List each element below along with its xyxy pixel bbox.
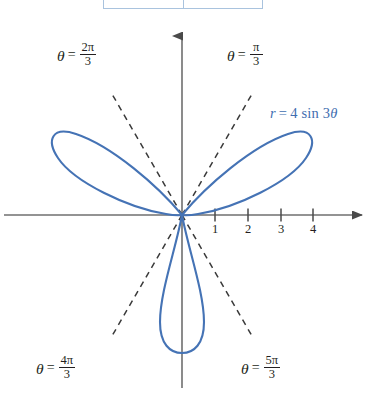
fraction-numerator: 5π — [264, 354, 281, 367]
angle-label-5pi-over-3: θ = 5π 3 — [241, 355, 280, 382]
x-tick-label-3: 3 — [273, 222, 289, 237]
fraction-denominator: 3 — [83, 55, 93, 68]
x-tick-label-1: 1 — [207, 222, 223, 237]
fraction-2pi-over-3: 2π 3 — [80, 41, 97, 68]
fraction-numerator: π — [251, 41, 261, 54]
x-tick-label-2: 2 — [240, 222, 256, 237]
fraction-denominator: 3 — [62, 368, 72, 381]
petal-right — [182, 132, 312, 216]
angle-label-2pi-over-3: θ = 2π 3 — [57, 42, 96, 69]
fraction-denominator: 3 — [251, 55, 261, 68]
angle-label-4pi-over-3: θ = 4π 3 — [36, 355, 75, 382]
fraction-4pi-over-3: 4π 3 — [59, 354, 76, 381]
equals-symbol: = — [252, 361, 260, 375]
equation-equals: = — [279, 105, 287, 121]
dashed-line-2pi-over-3 — [112, 94, 182, 215]
theta-symbol: θ — [227, 48, 235, 64]
theta-symbol: θ — [241, 361, 249, 377]
dashed-line-pi-over-3 — [182, 94, 252, 215]
equals-symbol: = — [238, 48, 246, 62]
polar-rose-figure: 1 2 3 4 θ = 2π 3 θ = π 3 θ = 4π 3 θ = — [0, 0, 385, 414]
fraction-numerator: 2π — [80, 41, 97, 54]
fraction-numerator: 4π — [59, 354, 76, 367]
x-tick-label-4: 4 — [305, 222, 321, 237]
theta-symbol: θ — [36, 361, 44, 377]
equation-expression: 4 sin 3 — [290, 105, 330, 121]
fraction-pi-over-3: π 3 — [250, 41, 263, 68]
petal-left — [52, 132, 182, 216]
fraction-denominator: 3 — [267, 368, 277, 381]
theta-symbol: θ — [57, 48, 65, 64]
equation-variable-r: r — [270, 105, 276, 121]
fraction-5pi-over-3: 5π 3 — [264, 354, 281, 381]
equals-symbol: = — [47, 361, 55, 375]
angle-label-pi-over-3: θ = π 3 — [227, 42, 263, 69]
equals-symbol: = — [68, 48, 76, 62]
equation-label: r=4 sin 3θ — [270, 106, 338, 121]
equation-theta: θ — [330, 105, 337, 121]
dashed-line-4pi-over-3 — [112, 215, 182, 336]
